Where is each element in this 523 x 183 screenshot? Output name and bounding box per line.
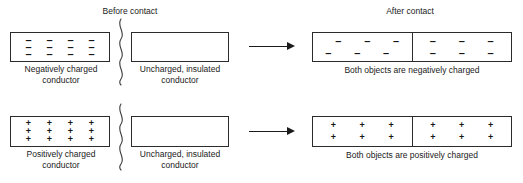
charge-symbol-minus: – — [25, 51, 31, 57]
uncharged-insulated-conductor-label: Uncharged, insulated conductor — [126, 149, 234, 170]
label-line-1: Positively charged — [27, 149, 96, 159]
charge-symbol-plus: + — [388, 134, 393, 141]
charge-symbol-plus: + — [360, 134, 365, 141]
positive-result-left-charge-grid: + + + + + + — [313, 117, 412, 146]
negative-result-left-charge-grid: – – – – – – — [313, 33, 412, 61]
charge-symbol-plus: + — [331, 122, 336, 129]
charge-symbol-minus: – — [459, 38, 465, 44]
charging-by-conduction-diagram: Before contact After contact – – – – – –… — [0, 0, 523, 183]
charge-symbol-minus: – — [364, 38, 370, 44]
negatively-charged-conductor-label: Negatively charged conductor — [5, 64, 117, 85]
charge-symbol-plus: + — [459, 134, 464, 141]
positive-charge-grid: + + + + + + + + + + + + — [11, 117, 109, 146]
negatively-charged-conductor-box: – – – – – – – – – – – – — [10, 32, 110, 62]
charge-symbol-minus: – — [354, 50, 360, 56]
label-line-1: Uncharged, insulated — [140, 149, 220, 159]
charge-symbol-plus: + — [488, 134, 493, 141]
charge-symbol-plus: + — [459, 122, 464, 129]
charge-symbol-minus: – — [488, 38, 494, 44]
charge-symbol-minus: – — [383, 50, 389, 56]
positively-charged-conductor-box: + + + + + + + + + + + + — [10, 116, 110, 147]
label-line-1: Negatively charged — [25, 64, 98, 74]
charge-symbol-minus: – — [88, 51, 94, 57]
process-arrow-negative — [249, 42, 295, 51]
charge-symbol-plus: + — [360, 122, 365, 129]
charge-symbol-minus: – — [393, 38, 399, 44]
charge-symbol-plus: + — [47, 136, 52, 143]
label-line-2: conductor — [42, 160, 79, 170]
negative-result-right-half: – – – – – – — [412, 33, 512, 61]
charge-symbol-plus: + — [68, 136, 73, 143]
uncharged-insulated-conductor-label: Uncharged, insulated conductor — [126, 64, 234, 85]
charge-symbol-plus: + — [488, 122, 493, 129]
charge-symbol-plus: + — [430, 122, 435, 129]
label-line-2: conductor — [161, 75, 198, 85]
charge-symbol-minus: – — [488, 50, 494, 56]
process-arrow-positive — [249, 127, 295, 136]
label-line-1: Uncharged, insulated — [140, 64, 220, 74]
before-contact-header: Before contact — [70, 6, 190, 16]
charge-symbol-plus: + — [26, 136, 31, 143]
label-line-2: conductor — [42, 75, 79, 85]
positively-charged-conductor-label: Positively charged conductor — [5, 149, 117, 170]
charge-symbol-minus: – — [430, 38, 436, 44]
charge-symbol-minus: – — [67, 51, 73, 57]
after-contact-header: After contact — [350, 6, 470, 16]
charge-symbol-plus: + — [388, 122, 393, 129]
positive-result-caption: Both objects are positively charged — [312, 150, 512, 161]
negative-result-caption: Both objects are negatively charged — [312, 65, 512, 76]
label-line-2: conductor — [161, 160, 198, 170]
charge-symbol-minus: – — [335, 38, 341, 44]
charge-symbol-minus: – — [430, 50, 436, 56]
charge-symbol-minus: – — [459, 50, 465, 56]
uncharged-insulated-conductor-box — [131, 32, 229, 62]
negative-result-combined-box: – – – – – – – – – – – – — [312, 32, 512, 62]
charge-symbol-plus: + — [331, 134, 336, 141]
charge-symbol-minus: – — [46, 51, 52, 57]
charge-symbol-plus: + — [430, 134, 435, 141]
positive-result-right-charge-grid: + + + + + + — [413, 117, 512, 146]
uncharged-insulated-conductor-box — [131, 116, 229, 147]
charge-symbol-minus: – — [325, 50, 331, 56]
negative-charge-grid: – – – – – – – – – – – – — [11, 33, 109, 61]
positive-result-left-half: + + + + + + — [313, 117, 412, 146]
positive-result-right-half: + + + + + + — [412, 117, 512, 146]
charge-symbol-plus: + — [89, 136, 94, 143]
negative-result-left-half: – – – – – – — [313, 33, 412, 61]
positive-result-combined-box: + + + + + + + + + + + + — [312, 116, 512, 147]
negative-result-right-charge-grid: – – – – – – — [413, 33, 512, 61]
